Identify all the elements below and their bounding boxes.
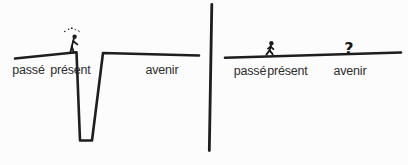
left-label-present: présent [50,63,91,77]
panel-divider-line [209,5,212,151]
panel-without-pit: ? passé présent avenir [225,39,401,78]
startle-marks-icon [64,27,79,32]
timeline-continuous-line [225,53,401,58]
walking-stick-figure-icon [266,41,273,55]
right-label-future: avenir [334,64,367,78]
startled-stick-figure-icon [70,35,77,53]
left-label-future: avenir [146,63,179,77]
right-label-past: passé [234,64,267,78]
diagram-canvas: passé présent avenir ? passé présent [0,0,408,165]
right-label-present: présent [267,64,308,78]
panel-with-pit: passé présent avenir [12,27,199,140]
question-mark: ? [344,39,353,58]
left-label-past: passé [12,63,45,77]
figure-arm [73,41,77,44]
scanned-timeline-diagram: passé présent avenir ? passé présent [0,0,408,165]
figure-torso [72,39,74,47]
figure-leg-front [270,50,273,54]
figure-leg-right [72,47,74,53]
